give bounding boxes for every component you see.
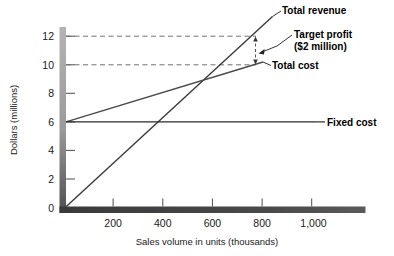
y-tick-label-12: 12 <box>42 30 54 42</box>
x-tick-label-600: 600 <box>204 217 222 229</box>
y-axis-title: Dollars (millions) <box>8 85 19 155</box>
x-tick-label-1000: 1,000 <box>300 217 326 229</box>
x-tick-label-400: 400 <box>154 217 172 229</box>
x-axis-title: Sales volume in units (thousands) <box>136 236 279 247</box>
y-tick-label-2: 2 <box>48 173 54 185</box>
series-label-fixed-cost: Fixed cost <box>327 117 377 128</box>
series-label-target-profit-line2: ($2 million) <box>294 41 347 52</box>
chart-canvas: 12 10 8 6 4 2 0 200 400 600 800 1,000 <box>0 0 394 256</box>
y-tick-label-6: 6 <box>48 116 54 128</box>
series-label-total-revenue: Total revenue <box>282 5 347 16</box>
x-tick-label-800: 800 <box>253 217 271 229</box>
x-axis-bar <box>60 207 366 214</box>
y-tick-label-0: 0 <box>48 202 54 214</box>
y-tick-label-8: 8 <box>48 87 54 99</box>
series-label-target-profit-line1: Target profit <box>294 29 353 40</box>
series-label-total-cost: Total cost <box>272 60 319 71</box>
x-tick-label-200: 200 <box>104 217 122 229</box>
y-axis-bar <box>60 27 67 213</box>
breakeven-chart: 12 10 8 6 4 2 0 200 400 600 800 1,000 <box>0 0 394 256</box>
y-tick-label-4: 4 <box>48 144 54 156</box>
y-tick-label-10: 10 <box>42 59 54 71</box>
